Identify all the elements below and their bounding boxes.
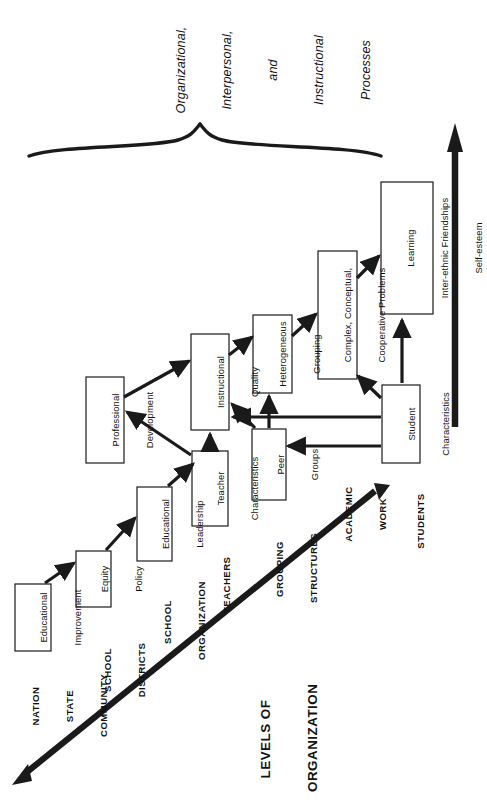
text-line: STUDENTS bbox=[415, 493, 426, 549]
levels-of-organization-label: LEVELS OF ORGANIZATION bbox=[227, 686, 352, 792]
text-line: GROUPING bbox=[274, 535, 285, 603]
label-outcomes: Learning Inter-ethnic Friendships Self-e… bbox=[382, 182, 487, 314]
arrow-equity-to-leadership bbox=[106, 518, 135, 550]
text-line: NATION bbox=[30, 675, 41, 737]
text-line: ORGANIZATION bbox=[305, 686, 321, 792]
level-teachers: TEACHERS bbox=[199, 561, 255, 613]
text-line: Professional bbox=[110, 377, 121, 463]
text-line: SCHOOL bbox=[102, 640, 113, 700]
text-line: Learning bbox=[405, 182, 416, 314]
title-line-0: Organizational, bbox=[174, 10, 189, 130]
level-grouping-structures: GROUPING STRUCTURES bbox=[252, 535, 342, 603]
text-line: Equity bbox=[99, 551, 110, 607]
text-line: STATE bbox=[64, 675, 75, 737]
text-line: Characteristics bbox=[440, 385, 451, 463]
diagram-title: Organizational, Interpersonal, and Instr… bbox=[143, 10, 405, 130]
text-line: Self-esteem bbox=[473, 182, 484, 314]
text-line: SCHOOL bbox=[162, 584, 173, 660]
title-line-3: Instructional bbox=[312, 10, 327, 130]
text-line: Teacher bbox=[215, 451, 226, 526]
text-line: LEVELS OF bbox=[258, 686, 274, 792]
text-line: ACADEMIC bbox=[343, 484, 354, 544]
arrow-studentchar-to-complex bbox=[358, 376, 381, 398]
text-line: Instructional bbox=[215, 334, 226, 430]
label-student-characteristics: Student Characteristics bbox=[383, 385, 474, 463]
text-line: Groups bbox=[309, 429, 320, 500]
label-professional-development: Professional Development bbox=[87, 377, 178, 463]
title-line-4: Processes bbox=[359, 10, 374, 130]
text-line: TEACHERS bbox=[221, 561, 232, 613]
text-line: Development bbox=[144, 377, 155, 463]
title-line-2: and bbox=[266, 10, 281, 130]
text-line: Heterogeneous bbox=[277, 315, 288, 393]
level-students: STUDENTS bbox=[393, 493, 449, 549]
text-line: Educational bbox=[38, 584, 49, 651]
arrow-improvement-to-equity bbox=[45, 563, 74, 583]
text-line: STRUCTURES bbox=[308, 535, 319, 603]
text-line: Peer bbox=[275, 429, 286, 500]
text-line: WORK bbox=[377, 484, 388, 544]
title-line-1: Interpersonal, bbox=[220, 10, 235, 130]
text-line: Inter-ethnic Friendships bbox=[439, 182, 450, 314]
text-line: Complex, Conceptual, bbox=[342, 251, 353, 379]
text-line: Student bbox=[406, 385, 417, 463]
text-line: Educational bbox=[160, 487, 171, 561]
arrow-leadership-to-teacherchar bbox=[168, 464, 193, 486]
